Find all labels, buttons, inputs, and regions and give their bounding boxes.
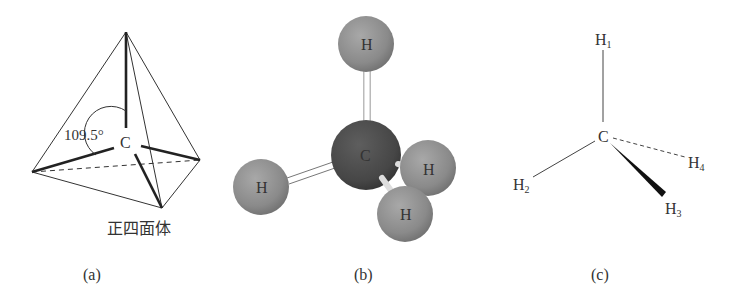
tetrahedron-caption: 正四面体 — [107, 219, 171, 238]
formula-carbon-label: C — [598, 128, 609, 145]
ball-hydrogen-label-top: H — [361, 36, 373, 53]
panel-b-label: (b) — [354, 266, 373, 284]
tetrahedron-diagram — [32, 32, 200, 208]
panel-c-label: (c) — [591, 266, 609, 284]
wedge-bond — [610, 143, 666, 197]
tetrahedron-carbon-label: C — [120, 134, 131, 151]
ball-hydrogen-label-front: H — [400, 206, 412, 223]
ball-hydrogen-label-right: H — [423, 161, 435, 178]
bond-angle-label: 109.5° — [64, 127, 104, 143]
formula-h1-label: H1 — [595, 31, 612, 50]
formula-h3-label: H3 — [665, 200, 682, 219]
formula-h4-label: H4 — [688, 154, 705, 173]
methane-figure: C 109.5° 正四面体 (a) C H H H H (b) C H1 — [0, 0, 729, 306]
structural-formula — [533, 50, 685, 197]
ball-carbon-label: C — [360, 147, 371, 164]
ball-hydrogen-label-left: H — [256, 179, 268, 196]
panel-a-label: (a) — [83, 266, 101, 284]
ball-and-stick-model — [233, 16, 456, 242]
formula-h2-label: H2 — [513, 176, 530, 195]
